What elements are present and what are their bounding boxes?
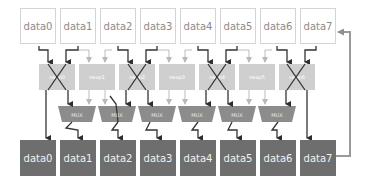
output-data0: data0 [20,140,56,176]
mux-label-3: MUX [180,112,214,118]
input-data6: data6 [260,8,296,44]
input-data5: data5 [220,8,256,44]
input-data1: data1 [60,8,96,44]
output-data6: data6 [260,140,296,176]
input-data3: data3 [140,8,176,44]
output-data3: data3 [140,140,176,176]
swap-2: swap2 [119,64,155,90]
output-data4: data4 [180,140,216,176]
mux-label-4: MUX [220,112,254,118]
input-data0: data0 [20,8,56,44]
mux-label-1: MUX [100,112,134,118]
mux-label-0: MUX [60,112,94,118]
output-data5: data5 [220,140,256,176]
swap-5: swap5 [239,64,275,90]
input-data2: data2 [100,8,136,44]
swap-0: swap0 [39,64,75,90]
swap-3: swap3 [159,64,195,90]
output-data7: data7 [300,140,336,176]
input-data7: data7 [300,8,336,44]
feedback-wire [336,32,350,156]
swap-6: swap6 [279,64,315,90]
output-data2: data2 [100,140,136,176]
output-data1: data1 [60,140,96,176]
input-data4: data4 [180,8,216,44]
swap-1: swap1 [79,64,115,90]
mux-label-2: MUX [140,112,174,118]
swap-4: swap4 [199,64,235,90]
mux-label-5: MUX [260,112,294,118]
